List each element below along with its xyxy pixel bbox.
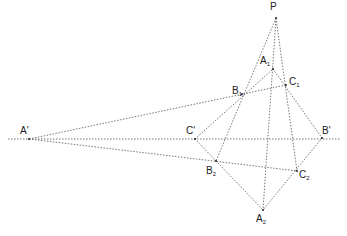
line-P-B1-B2: [216, 18, 276, 161]
point-A2: [262, 209, 264, 211]
line-Cprime-B1-A1: [195, 69, 273, 139]
label-Aprime: A': [20, 126, 29, 136]
point-P: [275, 17, 277, 19]
geometry-diagram: [0, 0, 347, 236]
point-B2: [215, 160, 217, 162]
label-Cprime: C': [186, 126, 195, 136]
point-Aprime: [28, 138, 30, 140]
point-Cprime: [194, 138, 196, 140]
line-Aprime-B2-C2: [29, 139, 297, 171]
label-A2: A2: [256, 214, 266, 227]
point-C1: [285, 84, 287, 86]
label-C1: C1: [289, 77, 300, 90]
line-P-C1-C2: [276, 18, 297, 171]
label-B2: B2: [206, 166, 216, 179]
label-B1: B1: [232, 86, 242, 99]
label-A1: A1: [260, 56, 270, 69]
point-Bprime: [321, 137, 323, 139]
label-C2: C2: [299, 170, 310, 183]
line-Bprime-C2-A2: [263, 138, 322, 210]
line-Aprime-B1-C1: [29, 85, 286, 139]
label-P: P: [270, 2, 277, 12]
point-C2: [296, 170, 298, 172]
label-Bprime: B': [322, 126, 331, 136]
line-P-A1-A2: [263, 18, 276, 210]
point-A1: [272, 68, 274, 70]
